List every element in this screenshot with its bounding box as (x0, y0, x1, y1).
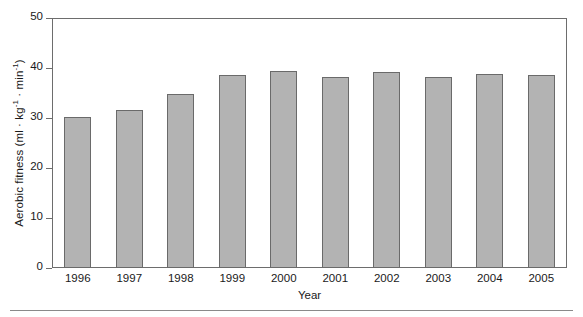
y-axis-tick-mark (46, 268, 52, 269)
bar-1996 (64, 117, 91, 268)
x-axis-tick-label-2001: 2001 (308, 272, 362, 284)
x-axis-tick-label-1999: 1999 (205, 272, 259, 284)
x-axis-tick-label-1996: 1996 (51, 272, 105, 284)
y-axis-title-exponent-kg: -1 (11, 100, 20, 107)
y-axis-tick-label: 20 (30, 160, 43, 172)
x-axis-tick-label-1998: 1998 (154, 272, 208, 284)
x-axis-tick-label-2003: 2003 (411, 272, 465, 284)
y-axis-tick-10: 10 (0, 218, 52, 219)
y-axis-tick-40: 40 (0, 68, 52, 69)
bar-2005 (528, 75, 555, 269)
y-axis-title-exponent-min: -1 (11, 63, 20, 70)
y-axis-title-prefix: Aerobic fitness (ml · kg (13, 107, 25, 226)
x-axis-tick-label-2000: 2000 (257, 272, 311, 284)
x-axis-tick-label-2004: 2004 (463, 272, 517, 284)
y-axis-tick-label: 0 (37, 260, 43, 272)
y-axis-tick-20: 20 (0, 168, 52, 169)
y-axis-title-suffix: ) (13, 59, 25, 63)
y-axis-tick-label: 40 (30, 60, 43, 72)
bar-2000 (270, 71, 297, 268)
y-axis-tick-30: 30 (0, 118, 52, 119)
y-axis-tick-label: 30 (30, 110, 43, 122)
bar-2002 (373, 72, 400, 269)
y-axis-tick-label: 50 (30, 10, 43, 22)
bar-1999 (219, 75, 246, 268)
y-axis-title: Aerobic fitness (ml · kg-1 · min-1) (8, 8, 30, 278)
bar-2004 (476, 74, 503, 268)
x-axis-title: Year (52, 289, 567, 301)
y-axis-title-middle: · min (13, 71, 25, 100)
y-axis-tick-50: 50 (0, 18, 52, 19)
x-axis-tick-label-1997: 1997 (102, 272, 156, 284)
aerobic-fitness-bar-chart-figure: Aerobic fitness (ml · kg-1 · min-1) 0102… (0, 0, 583, 317)
x-axis-tick-label-2005: 2005 (514, 272, 568, 284)
bar-2003 (425, 77, 452, 268)
y-axis-tick-0: 0 (0, 268, 52, 269)
x-axis-tick-label-2002: 2002 (360, 272, 414, 284)
bar-2001 (322, 77, 349, 268)
bar-1997 (116, 110, 143, 268)
y-axis-tick-label: 10 (30, 210, 43, 222)
footer-rule (10, 310, 573, 311)
bar-1998 (167, 94, 194, 268)
